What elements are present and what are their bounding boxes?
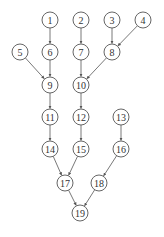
node-12: 12: [73, 109, 89, 125]
node-label: 6: [48, 47, 53, 58]
nodes-layer: 12345678910111213141516171819: [12, 12, 151, 221]
tree-diagram: 12345678910111213141516171819: [0, 0, 164, 237]
edge-4-to-8: [118, 26, 138, 46]
node-label: 15: [76, 144, 86, 155]
node-label: 14: [45, 144, 55, 155]
node-label: 3: [110, 15, 115, 26]
node-3: 3: [104, 12, 120, 28]
edge-16-to-18: [104, 156, 117, 176]
node-label: 17: [60, 178, 70, 189]
edge-14-to-17: [53, 156, 61, 175]
node-label: 2: [79, 15, 84, 26]
node-5: 5: [12, 44, 28, 60]
node-1: 1: [42, 12, 58, 28]
node-18: 18: [91, 175, 107, 191]
node-label: 5: [18, 47, 23, 58]
node-label: 1: [48, 15, 53, 26]
edge-8-to-10: [87, 58, 107, 79]
edge-5-to-9: [25, 58, 44, 79]
node-label: 7: [79, 47, 84, 58]
edge-18-to-19: [85, 190, 95, 206]
node-19: 19: [72, 205, 88, 221]
node-14: 14: [42, 141, 58, 157]
node-label: 12: [76, 112, 86, 123]
node-label: 18: [94, 178, 104, 189]
node-label: 19: [75, 208, 85, 219]
node-4: 4: [135, 12, 151, 28]
node-10: 10: [73, 77, 89, 93]
node-label: 10: [76, 80, 86, 91]
node-9: 9: [42, 77, 58, 93]
node-label: 11: [45, 112, 55, 123]
node-17: 17: [57, 175, 73, 191]
node-6: 6: [42, 44, 58, 60]
node-8: 8: [104, 44, 120, 60]
node-15: 15: [73, 141, 89, 157]
node-label: 4: [141, 15, 146, 26]
node-label: 16: [116, 144, 126, 155]
edge-17-to-19: [69, 190, 77, 205]
node-label: 8: [110, 47, 115, 58]
node-13: 13: [113, 109, 129, 125]
edge-15-to-17: [69, 156, 78, 175]
node-label: 9: [48, 80, 53, 91]
node-label: 13: [116, 112, 126, 123]
node-7: 7: [73, 44, 89, 60]
node-16: 16: [113, 141, 129, 157]
node-11: 11: [42, 109, 58, 125]
node-2: 2: [73, 12, 89, 28]
